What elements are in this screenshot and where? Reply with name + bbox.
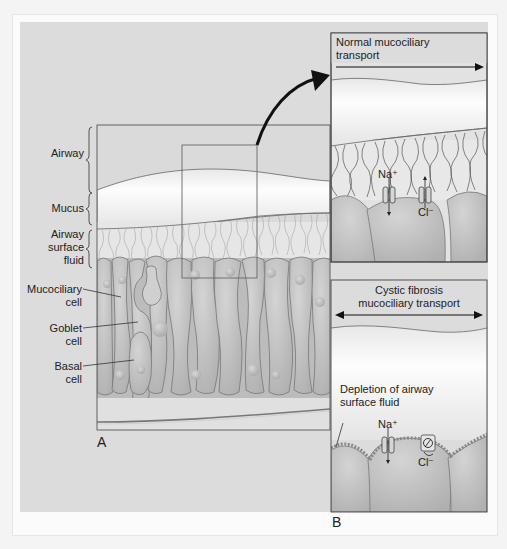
normal-panel-illustration: [331, 33, 491, 270]
label-braces: [86, 127, 92, 268]
normal-transport-title: Normal mucociliary transport: [336, 36, 430, 62]
label-mucociliary-cell: Mucociliary cell: [10, 283, 82, 309]
panel-a-letter: A: [97, 434, 106, 450]
cf-na-label: Na⁺: [378, 418, 398, 431]
normal-cl-label: Cl⁻: [418, 206, 434, 219]
normal-na-label: Na⁺: [378, 168, 398, 181]
depletion-label: Depletion of airway surface fluid: [340, 383, 434, 409]
curved-arrow-head-icon: [311, 70, 330, 91]
panel-b-letter: B: [332, 514, 341, 530]
label-goblet-cell: Goblet cell: [10, 322, 82, 348]
panel-a-illustration: [97, 125, 333, 430]
cf-cl-label: Cl⁻: [418, 456, 434, 469]
label-mucus: Mucus: [20, 202, 84, 215]
label-basal-cell: Basal cell: [10, 360, 82, 386]
label-airway: Airway: [20, 147, 84, 160]
label-airway-surface-fluid: Airway surface fluid: [20, 228, 84, 267]
cf-transport-title: Cystic fibrosis mucociliary transport: [331, 284, 487, 310]
